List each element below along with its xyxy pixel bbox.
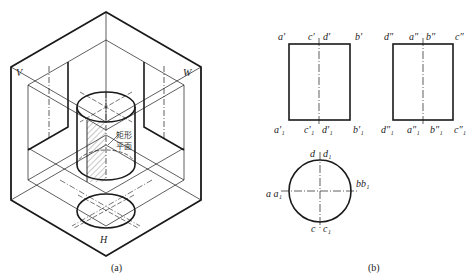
caption-a: (a): [111, 262, 122, 274]
annotation-rectangular: 矩形: [116, 130, 132, 140]
label-d-prime: d′: [323, 31, 331, 42]
label-a-a1: a a₁: [266, 188, 282, 199]
label-a-prime: a′: [278, 31, 286, 42]
label-b-dprime: b″: [426, 31, 436, 42]
label-b-prime: b′: [355, 31, 363, 42]
label-c: c: [311, 223, 316, 234]
figure-a-isometric: [11, 12, 201, 256]
plane-label-h: H: [99, 234, 108, 245]
caption-b: (b): [368, 262, 380, 274]
label-c1-prime: c′₁: [304, 124, 314, 135]
label-d: d: [310, 148, 316, 159]
label-b1-prime: b′₁: [353, 124, 364, 135]
label-d1-prime: d′₁: [322, 124, 333, 135]
label-a1-dprime: a″₁: [407, 124, 420, 135]
plane-label-v: V: [16, 67, 24, 78]
label-c-dprime: c″: [455, 31, 464, 42]
front-view-rect: [289, 44, 350, 120]
label-c1-dprime: c″₁: [454, 124, 466, 135]
projection-diagram: V W H 矩形 平面 (a) a′ c′ d′ b′ a′₁ c′₁ d′₁ …: [0, 0, 474, 280]
label-a-dprime: a″: [409, 31, 419, 42]
label-b1-dprime: b″₁: [430, 124, 443, 135]
v-projection: [28, 62, 68, 150]
label-c1: c₁: [323, 223, 331, 234]
annotation-plane: 平面: [116, 142, 132, 151]
label-d-dprime: d″: [384, 31, 394, 42]
label-b-b1: bb₁: [356, 178, 369, 189]
label-d1-dprime: d″₁: [381, 124, 394, 135]
label-d1: d₁: [323, 148, 331, 159]
label-c-prime: c′: [308, 31, 315, 42]
label-a1-prime: a′₁: [274, 124, 285, 135]
